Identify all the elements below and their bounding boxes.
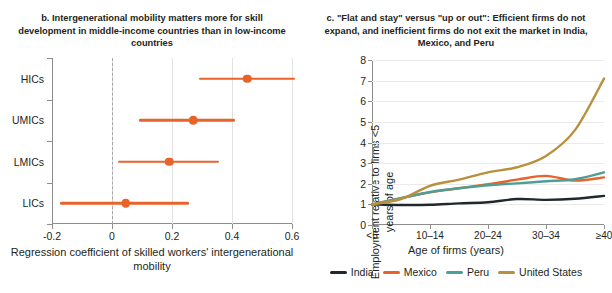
panel-c-x-tick — [604, 225, 605, 229]
legend-label: United States — [519, 266, 582, 278]
panel-b-x-tick-label: 0.2 — [165, 230, 180, 242]
panel-c-x-tick-label: 30–34 — [532, 230, 560, 241]
panel-b-y-tick — [47, 224, 52, 225]
panel-b-x-tick-label: 0.4 — [225, 230, 240, 242]
panel-c: c. "Flat and stay" versus "up or out": E… — [304, 0, 608, 293]
panel-b-y-tick — [47, 183, 52, 184]
panel-c-y-tick-label: 5 — [360, 116, 366, 128]
panel-c-x-tick — [372, 225, 373, 229]
panel-b-x-tick-label: 0.6 — [285, 230, 300, 242]
panel-c-x-tick-label: 10–14 — [416, 230, 444, 241]
panel-c-x-tick-label: <5 — [366, 230, 377, 241]
legend-label: Mexico — [404, 266, 437, 278]
panel-c-x-tick-label: ≥40 — [596, 230, 612, 241]
panel-c-y-tick-label: 6 — [360, 95, 366, 107]
panel-c-x-tick — [488, 225, 489, 229]
panel-c-plot-area: Employment relative to firms <5 years of… — [372, 60, 604, 225]
panel-b-confidence-interval — [139, 119, 235, 122]
panel-c-title: c. "Flat and stay" versus "up or out": E… — [304, 12, 608, 50]
panel-c-y-tick-label: 8 — [360, 54, 366, 66]
panel-b-category-label-umics: UMICs — [12, 114, 44, 126]
panel-c-x-tick — [430, 225, 431, 229]
panel-c-y-tick-label: 7 — [360, 75, 366, 87]
panel-b-x-tick — [112, 224, 113, 229]
panel-b-category-label-hics: HICs — [21, 73, 44, 85]
legend-item-mexico[interactable]: Mexico — [383, 266, 437, 278]
panel-b: b. Intergenerational mobility matters mo… — [0, 0, 304, 293]
panel-b-point-estimate — [121, 199, 130, 208]
panel-b-x-tick — [232, 224, 233, 229]
panel-b-point-estimate — [189, 116, 198, 125]
panel-b-gridline — [292, 58, 293, 224]
panel-c-series-lines — [372, 60, 604, 225]
panel-c-x-tick-label: 20–24 — [474, 230, 502, 241]
legend-swatch-icon — [383, 271, 400, 274]
panel-b-zero-reference-line — [112, 58, 113, 224]
panel-b-y-tick — [47, 100, 52, 101]
panel-c-y-tick-label: 0 — [360, 219, 366, 231]
legend-swatch-icon — [446, 271, 463, 274]
panel-c-y-tick-label: 3 — [360, 157, 366, 169]
panel-b-x-tick-label: 0 — [109, 230, 115, 242]
legend-swatch-icon — [498, 271, 515, 274]
panel-b-point-estimate — [243, 75, 252, 84]
panel-b-category-label-lics: LICs — [22, 197, 44, 209]
legend-item-peru[interactable]: Peru — [446, 266, 489, 278]
legend-label: India — [351, 266, 374, 278]
panel-b-x-tick — [172, 224, 173, 229]
panel-c-y-tick-label: 4 — [360, 137, 366, 149]
panel-b-point-estimate — [165, 158, 174, 167]
panel-c-y-tick-label: 1 — [360, 198, 366, 210]
panel-c-x-tick — [546, 225, 547, 229]
legend-item-united-states[interactable]: United States — [498, 266, 582, 278]
panel-c-legend: IndiaMexicoPeruUnited States — [304, 266, 608, 278]
panel-b-plot-area: -0.200.20.40.6HICsUMICsLMICsLICs — [52, 58, 292, 224]
panel-b-y-axis — [52, 58, 53, 224]
panel-c-y-tick-label: 2 — [360, 178, 366, 190]
panel-b-gridline — [232, 58, 233, 224]
legend-swatch-icon — [330, 271, 347, 274]
panel-b-x-tick — [52, 224, 53, 229]
legend-item-india[interactable]: India — [330, 266, 374, 278]
panel-b-x-tick-label: -0.2 — [43, 230, 61, 242]
panel-b-title: b. Intergenerational mobility matters mo… — [0, 12, 304, 50]
panel-b-x-axis-caption: Regression coefficient of skilled worker… — [8, 246, 296, 273]
panel-b-y-tick — [47, 141, 52, 142]
panel-b-gridline — [172, 58, 173, 224]
panel-b-y-tick — [47, 58, 52, 59]
legend-label: Peru — [467, 266, 489, 278]
panel-c-x-axis-title: Age of firms (years) — [304, 244, 608, 256]
panel-b-category-label-lmics: LMICs — [14, 156, 44, 168]
panel-b-x-tick — [292, 224, 293, 229]
